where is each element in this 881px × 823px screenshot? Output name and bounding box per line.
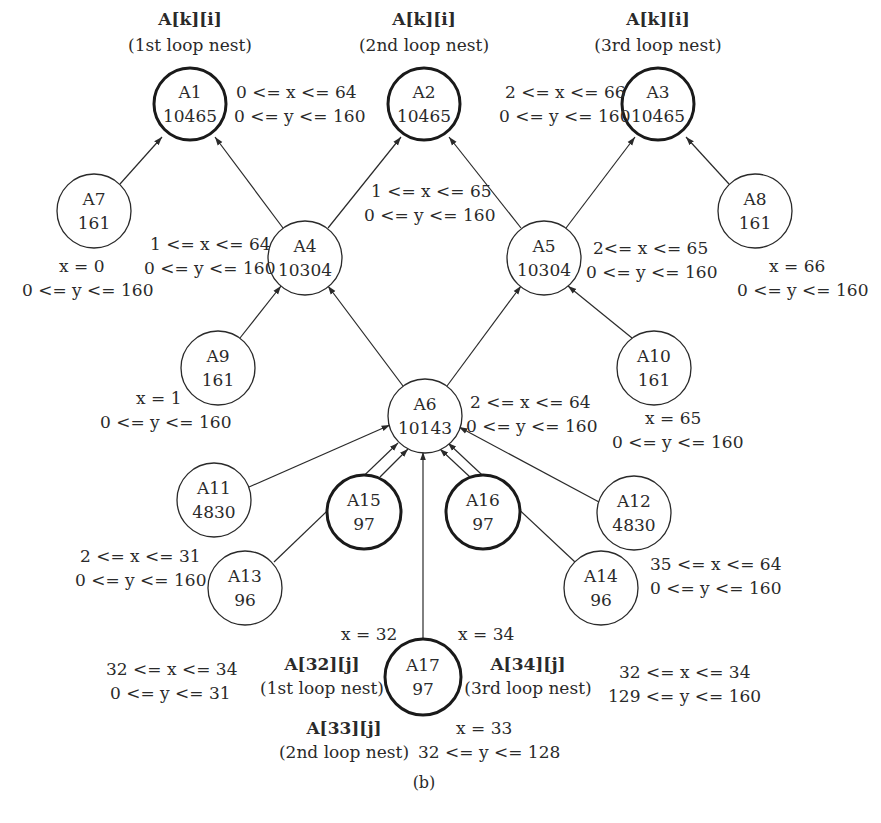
node-A5-id: A5 xyxy=(531,236,555,256)
access-label-A16-ref: A[34][j] xyxy=(489,654,565,674)
node-A15-value: 97 xyxy=(353,514,375,534)
access-label-A15-nest: (1st loop nest) xyxy=(260,678,384,698)
node-A11: A11 4830 xyxy=(177,463,251,537)
range-A3-x: 2 <= x <= 66 xyxy=(505,82,626,102)
node-A11-value: 4830 xyxy=(192,502,235,522)
edge-A6-A4 xyxy=(328,286,403,386)
node-A5: A5 10304 xyxy=(507,221,581,295)
node-A14-value: 96 xyxy=(590,590,612,610)
range-A10-x: x = 65 xyxy=(645,408,701,428)
access-label-A2-ref: A[k][i] xyxy=(391,9,456,29)
node-A2-id: A2 xyxy=(411,82,435,102)
range-A9-x: x = 1 xyxy=(136,388,181,408)
access-label-A1-nest: (1st loop nest) xyxy=(128,35,252,55)
node-A14-id: A14 xyxy=(583,566,618,586)
node-A14: A14 96 xyxy=(564,551,638,625)
range-A15-x: x = 32 xyxy=(341,624,397,644)
node-A3-id: A3 xyxy=(645,82,669,102)
range-A8-y: 0 <= y <= 160 xyxy=(737,280,868,300)
node-A11-id: A11 xyxy=(196,478,231,498)
node-A6-id: A6 xyxy=(412,394,436,414)
range-A6-y: 0 <= y <= 160 xyxy=(466,416,597,436)
node-A8-id: A8 xyxy=(742,189,766,209)
node-A4-id: A4 xyxy=(292,236,316,256)
node-A17: A17 97 xyxy=(385,639,461,715)
range-A1-x: 0 <= x <= 64 xyxy=(236,82,357,102)
edge-A15-A6 xyxy=(380,449,408,477)
node-A17-id: A17 xyxy=(405,655,440,675)
access-label-A15-ref: A[32][j] xyxy=(283,654,359,674)
access-label-A1-ref: A[k][i] xyxy=(157,9,222,29)
node-A3: A3 10465 xyxy=(622,68,694,140)
edge-A7-A1 xyxy=(120,137,162,184)
node-A6-value: 10143 xyxy=(398,418,452,438)
range-A9-y: 0 <= y <= 160 xyxy=(100,412,231,432)
node-A7-value: 161 xyxy=(78,213,110,233)
range-A17-x: x = 33 xyxy=(456,718,512,738)
node-A9-value: 161 xyxy=(202,370,234,390)
edge-A10-A5 xyxy=(568,286,632,338)
node-A13-id: A13 xyxy=(227,566,262,586)
edge-A6-A5 xyxy=(447,286,521,386)
node-A15-id: A15 xyxy=(346,490,381,510)
node-A9-id: A9 xyxy=(205,346,229,366)
node-A10-id: A10 xyxy=(636,346,671,366)
range-A11-y: 0 <= y <= 160 xyxy=(75,570,206,590)
figure-caption: (b) xyxy=(413,773,436,792)
access-label-A3-ref: A[k][i] xyxy=(625,9,690,29)
range-A5-y: 0 <= y <= 160 xyxy=(586,262,717,282)
range-A10-y: 0 <= y <= 160 xyxy=(612,432,743,452)
range-A17-y: 32 <= y <= 128 xyxy=(418,742,560,762)
edge-A4-A1 xyxy=(215,137,283,228)
range-A16-x: x = 34 xyxy=(458,624,514,644)
node-A3-value: 10465 xyxy=(631,106,685,126)
range-A14-y: 129 <= y <= 160 xyxy=(608,686,761,706)
node-A1-id: A1 xyxy=(177,82,201,102)
access-label-A17-nest: (2nd loop nest) xyxy=(279,742,409,762)
node-A16-id: A16 xyxy=(465,490,500,510)
node-A8: A8 161 xyxy=(718,174,792,248)
range-A3-y: 0 <= y <= 160 xyxy=(499,106,630,126)
range-A7-y: 0 <= y <= 160 xyxy=(22,280,153,300)
node-A13-value: 96 xyxy=(234,590,256,610)
edge-A16-A6 xyxy=(440,449,470,477)
access-label-A3-nest: (3rd loop nest) xyxy=(594,35,721,55)
range-A2-x: 1 <= x <= 65 xyxy=(371,181,492,201)
node-A7: A7 161 xyxy=(57,174,131,248)
access-label-A2-nest: (2nd loop nest) xyxy=(359,35,489,55)
node-A2-value: 10465 xyxy=(397,106,451,126)
node-A16-value: 97 xyxy=(472,514,494,534)
range-A12-x: 35 <= x <= 64 xyxy=(650,554,781,574)
edge-A5-A3 xyxy=(566,137,635,228)
node-A4: A4 10304 xyxy=(268,221,342,295)
node-A5-value: 10304 xyxy=(517,260,571,280)
node-A4-value: 10304 xyxy=(278,260,332,280)
node-A12-value: 4830 xyxy=(612,515,655,535)
range-A13-x: 32 <= x <= 34 xyxy=(106,659,237,679)
node-A13: A13 96 xyxy=(208,551,282,625)
range-A1-y: 0 <= y <= 160 xyxy=(234,106,365,126)
node-A10: A10 161 xyxy=(617,331,691,405)
range-A12-y: 0 <= y <= 160 xyxy=(650,578,781,598)
range-A11-x: 2 <= x <= 31 xyxy=(80,546,201,566)
node-A6: A6 10143 xyxy=(388,379,462,453)
access-label-A17-ref: A[33][j] xyxy=(305,718,381,738)
node-A1-value: 10465 xyxy=(163,106,217,126)
node-A1: A1 10465 xyxy=(154,68,226,140)
range-A13-y: 0 <= y <= 31 xyxy=(110,683,231,703)
node-A9: A9 161 xyxy=(181,331,255,405)
node-A10-value: 161 xyxy=(638,370,670,390)
node-A12: A12 4830 xyxy=(597,476,671,550)
access-label-A16-nest: (3rd loop nest) xyxy=(464,678,591,698)
range-A6-x: 2 <= x <= 64 xyxy=(470,392,591,412)
range-A7-x: x = 0 xyxy=(59,256,104,276)
node-A7-id: A7 xyxy=(81,189,105,209)
edge-A8-A3 xyxy=(686,137,729,184)
range-A5-x: 2<= x <= 65 xyxy=(593,238,708,258)
node-A2: A2 10465 xyxy=(388,68,460,140)
dependency-tree-diagram: A1 10465 A2 10465 A3 10465 A7 161 A4 103… xyxy=(0,0,881,823)
range-A4-y: 0 <= y <= 160 xyxy=(144,258,275,278)
node-A17-value: 97 xyxy=(412,679,434,699)
node-A16: A16 97 xyxy=(446,475,520,549)
range-A14-x: 32 <= x <= 34 xyxy=(619,662,750,682)
